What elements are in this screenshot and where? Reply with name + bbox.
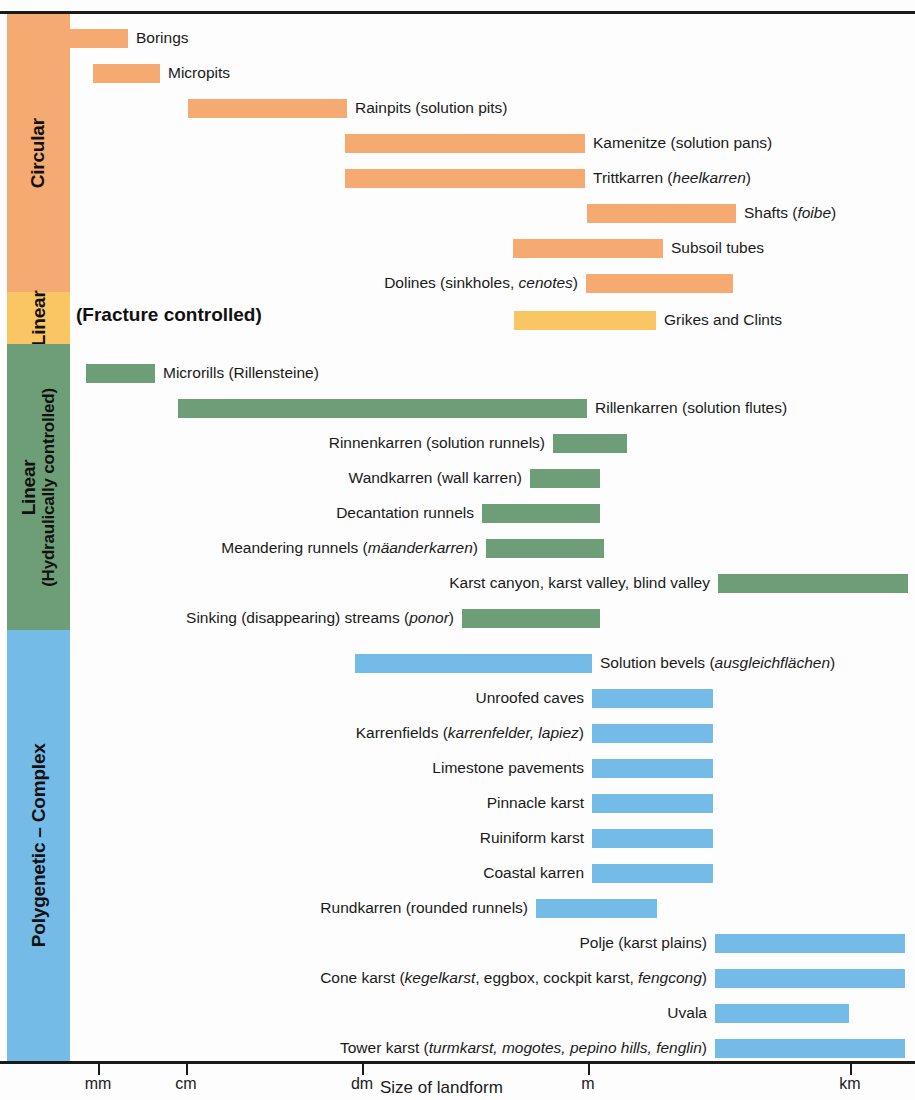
size-range-bar [93,64,160,83]
landform-label: Uvala [667,1002,707,1024]
landform-label: Polje (karst plains) [580,932,708,954]
axis-tick-mark [186,1064,188,1075]
landform-row: Dolines (sinkholes, cenotes) [70,270,915,296]
size-range-bar [345,169,585,188]
landform-row: Trittkarren (heelkarren) [70,165,915,191]
landform-row: Decantation runnels [70,500,915,526]
landform-label: Trittkarren (heelkarren) [593,167,751,189]
landform-row: Rinnenkarren (solution runnels) [70,430,915,456]
landform-row: Pinnacle karst [70,790,915,816]
size-range-bar [715,934,905,953]
landform-row: Rundkarren (rounded runnels) [70,895,915,921]
landform-label: Borings [136,27,189,49]
category-label-linear-hyd: Linear(Hydraulically controlled) [19,388,58,587]
karst-landform-size-chart: CircularLinearLinear(Hydraulically contr… [0,0,915,1100]
axis-tick-label: mm [85,1075,112,1093]
landform-label: Cone karst (kegelkarst, eggbox, cockpit … [320,967,707,989]
category-band-circular: Circular [7,14,70,292]
size-range-bar [70,29,128,48]
landform-row: Microrills (Rillensteine) [70,360,915,386]
landform-row: Micropits [70,60,915,86]
category-band-linear-hyd: Linear(Hydraulically controlled) [7,344,70,630]
size-range-bar [345,134,585,153]
landform-label: Tower karst (turmkarst, mogotes, pepino … [340,1037,707,1059]
landform-label: Rundkarren (rounded runnels) [320,897,528,919]
category-label-circular: Circular [28,118,49,188]
landform-row: Polje (karst plains) [70,930,915,956]
size-range-bar [178,399,587,418]
landform-label: Grikes and Clints [664,309,782,331]
size-range-bar [513,239,663,258]
landform-label: Coastal karren [483,862,584,884]
category-label-linear-frac: Linear [28,290,49,346]
landform-row: Shafts (foibe) [70,200,915,226]
landform-row: Rillenkarren (solution flutes) [70,395,915,421]
landform-row: Tower karst (turmkarst, mogotes, pepino … [70,1035,915,1061]
landform-label: Subsoil tubes [671,237,764,259]
size-range-bar [482,504,600,523]
size-range-bar [715,1004,849,1023]
size-range-bar [536,899,657,918]
landform-row: Karst canyon, karst valley, blind valley [70,570,915,596]
size-range-bar [592,864,713,883]
landform-row: Meandering runnels (mäanderkarren) [70,535,915,561]
landform-label: Unroofed caves [475,687,584,709]
landform-label: Rainpits (solution pits) [355,97,507,119]
landform-row: Limestone pavements [70,755,915,781]
landform-label: Solution bevels (ausgleichflächen) [600,652,835,674]
category-label-polygenetic: Polygenetic – Complex [28,744,49,948]
landform-row: Coastal karren [70,860,915,886]
axis-tick-label: km [839,1075,860,1093]
landform-label: Limestone pavements [432,757,584,779]
landform-row: Kamenitze (solution pans) [70,130,915,156]
axis-tick-label: m [581,1075,594,1093]
landform-row: Unroofed caves [70,685,915,711]
size-range-bar [462,609,600,628]
landform-row: Grikes and Clints [70,307,915,333]
axis-tick-mark [588,1064,590,1075]
axis-tick-label: dm [351,1075,373,1093]
category-band-linear-frac: Linear [7,292,70,344]
size-range-bar [592,829,713,848]
axis-tick-mark [362,1064,364,1075]
landform-label: Dolines (sinkholes, cenotes) [384,272,578,294]
axis-tick-label: cm [175,1075,196,1093]
size-range-bar [718,574,908,593]
size-range-bar [355,654,592,673]
landform-row: Subsoil tubes [70,235,915,261]
size-range-bar [86,364,155,383]
landform-row: Wandkarren (wall karren) [70,465,915,491]
axis-baseline [0,1061,915,1064]
landform-label: Kamenitze (solution pans) [593,132,772,154]
landform-label: Rinnenkarren (solution runnels) [329,432,545,454]
landform-row: Cone karst (kegelkarst, eggbox, cockpit … [70,965,915,991]
landform-row: Ruiniform karst [70,825,915,851]
size-range-bar [592,759,713,778]
category-band-polygenetic: Polygenetic – Complex [7,630,70,1061]
axis-title: Size of landform [380,1078,503,1098]
landform-label: Rillenkarren (solution flutes) [595,397,787,419]
plot-area: BoringsMicropitsRainpits (solution pits)… [70,14,915,1061]
landform-label: Pinnacle karst [487,792,584,814]
axis-tick-mark [850,1064,852,1075]
size-range-bar [530,469,600,488]
landform-label: Karst canyon, karst valley, blind valley [449,572,710,594]
landform-row: Uvala [70,1000,915,1026]
landform-label: Microrills (Rillensteine) [163,362,319,384]
size-range-bar [592,724,713,743]
landform-label: Ruiniform karst [480,827,584,849]
landform-row: Borings [70,25,915,51]
size-range-bar [514,311,656,330]
landform-label: Karrenfields (karrenfelder, lapiez) [356,722,584,744]
landform-row: Rainpits (solution pits) [70,95,915,121]
landform-row: Karrenfields (karrenfelder, lapiez) [70,720,915,746]
size-range-bar [553,434,627,453]
size-range-bar [486,539,604,558]
size-range-bar [592,794,713,813]
landform-label: Sinking (disappearing) streams (ponor) [186,607,454,629]
size-range-bar [188,99,347,118]
landform-label: Decantation runnels [336,502,474,524]
size-range-bar [587,204,736,223]
size-range-bar [715,1039,905,1058]
landform-label: Shafts (foibe) [744,202,836,224]
